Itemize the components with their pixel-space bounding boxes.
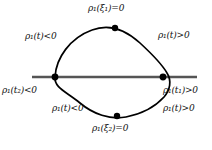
point-bottom-xi2 [114,113,120,119]
label-rho1-xi1-equals-zero: ρ₁(ξ₁)=0 [88,4,124,13]
label-text: ρ₁(ξ₁)=0 [88,3,124,13]
curve-sign-diagram: ρ₁(ξ₁)=0 ρ₁(t)<0 ρ₁(t)>0 ρ₁(t₂)<0 ρ₁(t)<… [0,0,212,150]
label-text: ρ₁(t₁)>0 [163,85,198,95]
label-text: ρ₁(t)>0 [163,103,194,113]
label-rho1-t-positive-lower-right: ρ₁(t)>0 [163,104,194,113]
label-rho1-t-negative-upper-left: ρ₁(t)<0 [25,32,56,41]
label-rho1-t2-negative: ρ₁(t₂)<0 [2,86,37,95]
label-text: ρ₁(t)<0 [25,31,56,41]
label-text: ρ₁(t)<0 [52,103,83,113]
label-rho1-t-negative-lower-left: ρ₁(t)<0 [52,104,83,113]
label-text: ρ₁(ξ₂)=0 [92,123,128,133]
point-right-node [160,74,167,81]
label-text: ρ₁(t₂)<0 [2,85,37,95]
label-rho1-t-positive-upper-right: ρ₁(t)>0 [158,31,189,40]
label-rho1-t1-positive: ρ₁(t₁)>0 [163,86,198,95]
label-rho1-xi2-equals-zero: ρ₁(ξ₂)=0 [92,124,128,133]
label-text: ρ₁(t)>0 [158,30,189,40]
point-left-node [52,74,59,81]
point-top-xi1 [112,25,118,31]
